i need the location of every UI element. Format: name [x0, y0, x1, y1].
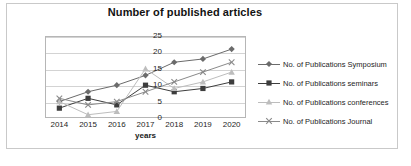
legend-item-label: No. of Publications Symposium	[280, 60, 387, 69]
x-tick-label: 2019	[188, 120, 218, 129]
x-tick-label: 2020	[217, 120, 247, 129]
y-tick-label: 10	[132, 80, 162, 89]
y-tick-label: 25	[132, 31, 162, 40]
chart-title: Number of published articles	[60, 6, 310, 18]
y-tick-label: 15	[132, 64, 162, 73]
chart-legend: No. of Publications SymposiumNo. of Publ…	[258, 56, 400, 132]
chart-figure: Number of published articles No. of publ…	[0, 0, 411, 166]
x-tick-label: 2017	[131, 120, 161, 129]
diamond-marker-icon	[258, 58, 280, 70]
x-tick-label: 2016	[102, 120, 132, 129]
x-axis-title: years	[45, 131, 246, 140]
legend-item[interactable]: No. of Publications seminars	[258, 75, 400, 91]
square-marker-icon	[258, 77, 280, 89]
legend-item-label: No. of Publications Journal	[280, 117, 372, 126]
caption-text	[6, 155, 306, 164]
legend-item[interactable]: No. of Publications Symposium	[258, 56, 400, 72]
legend-item[interactable]: No. of Publications conferences	[258, 94, 400, 110]
x-tick-label: 2014	[44, 120, 74, 129]
legend-item-label: No. of Publications seminars	[280, 79, 378, 88]
y-tick-label: 5	[132, 97, 162, 106]
x-tick-label: 2018	[159, 120, 189, 129]
cross-marker-icon	[258, 115, 280, 127]
y-tick-label: 20	[132, 47, 162, 56]
legend-item-label: No. of Publications conferences	[280, 98, 388, 107]
legend-item[interactable]: No. of Publications Journal	[258, 113, 400, 129]
triangle-marker-icon	[258, 96, 280, 108]
x-tick-label: 2015	[73, 120, 103, 129]
